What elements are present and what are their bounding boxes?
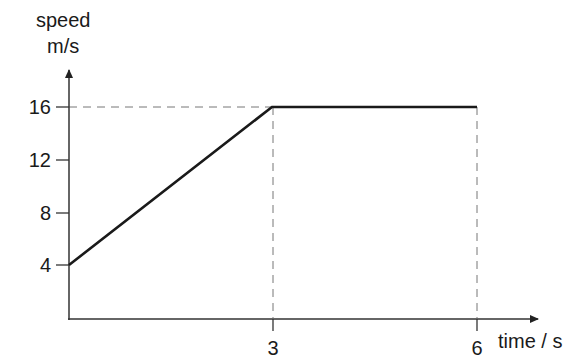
x-tick-label: 6 [471, 337, 482, 359]
y-tick-label: 8 [40, 202, 51, 224]
y-tick-label: 12 [29, 149, 51, 171]
y-axis-label-line2: m/s [47, 35, 79, 57]
speed-time-chart: 16 12 8 4 3 6 speed m/s time / s [0, 0, 588, 361]
x-axis-label: time / s [498, 330, 562, 352]
reference-lines [69, 107, 477, 318]
y-axis-label-line1: speed [36, 9, 91, 31]
y-ticks [56, 107, 69, 265]
y-tick-label: 4 [40, 254, 51, 276]
x-ticks [273, 319, 477, 331]
y-tick-label: 16 [29, 96, 51, 118]
x-tick-label: 3 [267, 337, 278, 359]
speed-line [69, 107, 477, 265]
